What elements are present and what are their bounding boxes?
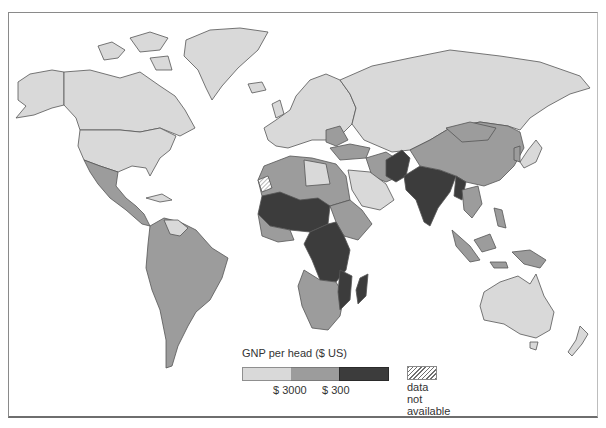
region-libya [304, 160, 330, 186]
region-caribbean [146, 194, 172, 202]
region-new-zealand [568, 326, 588, 356]
region-south-america [146, 218, 228, 368]
legend-tick-3000: $ 3000 [273, 384, 307, 396]
region-canada-islands [98, 32, 172, 70]
region-madagascar [356, 274, 368, 304]
legend-swatch-middle [291, 367, 339, 381]
region-alaska [16, 70, 64, 118]
legend-swatch-no-data [407, 366, 437, 380]
no-data-line-1: data [407, 381, 467, 393]
region-indochina [462, 186, 482, 218]
region-tasmania [530, 342, 538, 350]
no-data-line-3: available [407, 405, 467, 417]
legend-swatch-high [242, 367, 291, 381]
no-data-line-2: not [407, 393, 467, 405]
region-turkey [330, 144, 370, 160]
region-uk [272, 100, 284, 118]
region-canada [64, 70, 195, 136]
legend-swatch-low [339, 367, 389, 381]
region-philippines [494, 208, 506, 228]
region-iceland [248, 82, 266, 93]
region-australia [480, 274, 554, 338]
region-indonesia [452, 230, 508, 268]
legend-no-data-label: data not available [407, 381, 467, 417]
legend-no-data: data not available [407, 366, 467, 417]
legend-title: GNP per head ($ US) [242, 347, 347, 359]
region-korea [514, 146, 520, 162]
region-mozambique [338, 270, 352, 310]
legend-tick-300: $ 300 [322, 384, 350, 396]
region-india [404, 166, 456, 226]
region-new-guinea [512, 250, 546, 268]
